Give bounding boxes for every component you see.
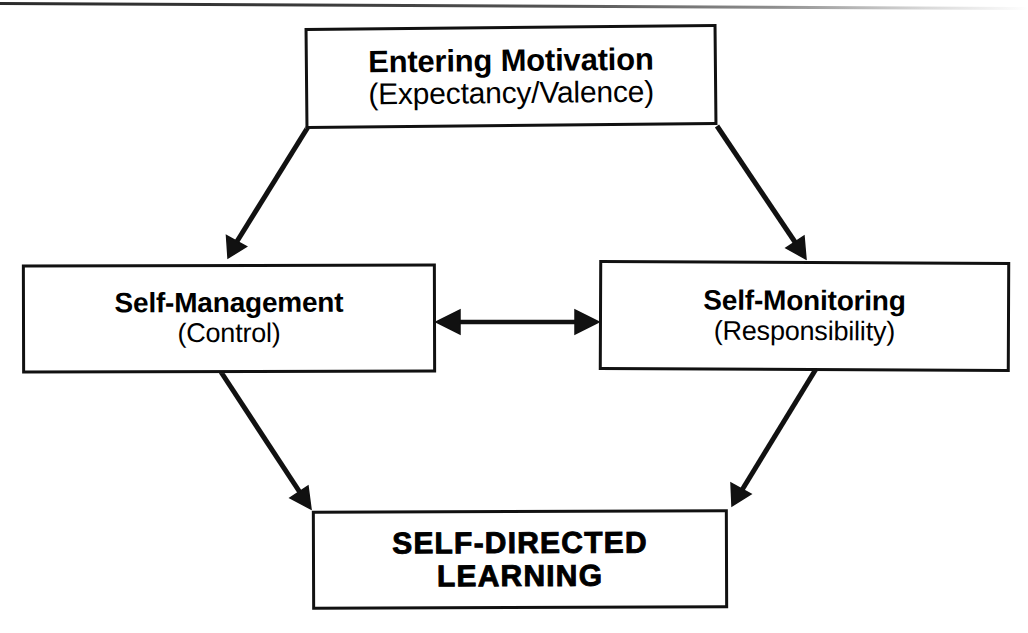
node-self-directed-learning: SELF-DIRECTED LEARNING — [312, 509, 728, 609]
arrow-motivation-to-self-monitoring — [717, 126, 806, 259]
node-self-monitoring-primary-label: Self-Monitoring — [703, 287, 905, 316]
node-entering-motivation: Entering Motivation (Expectancy/Valence) — [305, 24, 718, 129]
node-entering-motivation-secondary-label: (Expectancy/Valence) — [368, 76, 654, 109]
arrow-self-management-to-self-monitoring — [436, 310, 599, 334]
node-self-management: Self-Management (Control) — [22, 263, 436, 373]
node-self-directed-learning-label-line2: LEARNING — [437, 559, 603, 592]
node-self-management-primary-label: Self-Management — [115, 289, 344, 318]
diagram-canvas: Entering Motivation (Expectancy/Valence)… — [0, 0, 1028, 633]
node-self-directed-learning-label-line1: SELF-DIRECTED — [392, 527, 648, 560]
node-self-monitoring: Self-Monitoring (Responsibility) — [599, 260, 1010, 372]
arrow-motivation-to-self-management — [227, 127, 309, 258]
arrow-self-management-to-learning — [221, 372, 311, 509]
node-entering-motivation-primary-label: Entering Motivation — [368, 44, 654, 78]
node-self-management-secondary-label: (Control) — [177, 320, 280, 348]
scan-edge-artifact — [0, 2, 1028, 10]
node-self-monitoring-secondary-label: (Responsibility) — [714, 317, 895, 345]
arrow-self-monitoring-to-learning — [731, 369, 816, 506]
